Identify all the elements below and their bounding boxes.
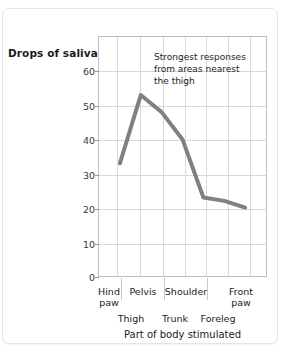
x-axis-separator <box>121 278 122 300</box>
chart-card: Drops of saliva 60 50 40 30 20 <box>2 8 278 344</box>
annotation-line-3: the thigh <box>154 75 246 87</box>
annotation-line-1: Strongest responses <box>154 51 246 63</box>
y-tick-label: 0 <box>89 272 95 283</box>
x-tick-label-line2: paw <box>99 297 119 308</box>
x-tick-label-line1: Pelvis <box>129 286 156 297</box>
plot-area: 60 50 40 30 20 10 0 <box>98 36 267 277</box>
y-tick-label: 60 <box>83 66 95 77</box>
y-tick-mark <box>95 277 99 278</box>
x-tick-label-shoulder: Shoulder <box>165 286 207 297</box>
x-tick-label-thigh: Thigh <box>118 313 145 324</box>
x-tick-label-line2: paw <box>231 297 251 308</box>
chart-annotation: Strongest responses from areas nearest t… <box>154 51 246 87</box>
x-tick-label-front-paw: Front paw <box>229 286 253 308</box>
x-tick-label-line1: Front <box>229 286 253 297</box>
y-axis-label: Drops of saliva <box>8 47 98 59</box>
x-tick-label-foreleg: Foreleg <box>201 313 236 324</box>
y-tick-label: 50 <box>83 101 95 112</box>
x-axis-title: Part of body stimulated <box>98 329 267 340</box>
annotation-line-2: from areas nearest <box>154 63 246 75</box>
x-tick-label-pelvis: Pelvis <box>129 286 156 297</box>
x-tick-label-hind-paw: Hind paw <box>98 286 120 308</box>
y-tick-label: 40 <box>83 135 95 146</box>
x-tick-label-line1: Thigh <box>118 313 145 324</box>
gridline-horizontal: 0 <box>99 277 266 278</box>
x-tick-label-line1: Foreleg <box>201 313 236 324</box>
y-tick-label: 10 <box>83 239 95 250</box>
y-tick-label: 30 <box>83 170 95 181</box>
x-tick-label-trunk: Trunk <box>162 313 188 324</box>
y-tick-label: 20 <box>83 204 95 215</box>
x-tick-label-line1: Hind <box>98 286 120 297</box>
x-tick-label-line1: Shoulder <box>165 286 207 297</box>
x-tick-label-line1: Trunk <box>162 313 188 324</box>
